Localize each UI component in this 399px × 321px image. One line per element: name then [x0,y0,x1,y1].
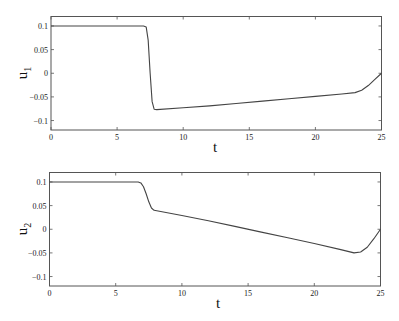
x-tick-label: 5 [115,133,119,142]
x-tick-label: 25 [378,133,386,142]
axes-frame [51,17,382,131]
subplot-1: 05101520250.10.050−0.05−0.1tu1 [14,17,386,156]
y-axis-label: u1 [14,67,33,80]
y-tick-label: 0.05 [33,202,47,211]
y-tick-label: −0.05 [28,249,47,258]
x-tick-label: 10 [179,133,187,142]
axes-frame [50,173,381,287]
chart-canvas: 05101520250.10.050−0.05−0.1tu10510152025… [0,0,399,321]
x-tick-label: 10 [178,289,186,298]
y-tick-label: 0.1 [37,178,47,187]
series-line-u2 [50,182,381,253]
x-tick-label: 5 [114,289,118,298]
y-tick-label: −0.1 [33,117,48,126]
x-tick-label: 0 [48,289,52,298]
x-tick-label: 20 [311,133,319,142]
y-tick-label: 0 [43,225,47,234]
x-tick-label: 0 [49,133,53,142]
x-tick-label: 20 [310,289,318,298]
y-tick-label: 0.1 [38,22,48,31]
x-tick-label: 15 [245,133,253,142]
subplot-2: 05101520250.10.050−0.05−0.1tu2 [14,173,385,312]
y-axis-label: u2 [14,223,33,236]
series-line-u1 [51,26,382,110]
x-tick-label: 15 [244,289,252,298]
y-tick-label: −0.05 [29,93,48,102]
y-tick-label: 0.05 [34,46,48,55]
x-tick-label: 25 [377,289,385,298]
y-tick-label: 0 [44,69,48,78]
x-axis-label: t [216,295,221,311]
x-axis-label: t [213,139,218,155]
y-tick-label: −0.1 [32,273,47,282]
